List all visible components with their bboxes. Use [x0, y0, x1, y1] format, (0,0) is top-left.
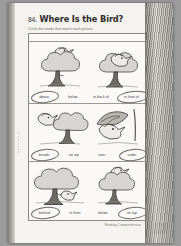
worksheet-title: Where Is the Bird?: [40, 14, 124, 24]
label-row2-1[interactable]: on top: [62, 153, 86, 157]
worksheet-frame: above below in back of in front of: [28, 33, 148, 221]
pencil-circle-row2-beside: [30, 148, 59, 163]
screenshot-root: Where Is the Bird? 84. Where Is the Bird…: [0, 0, 181, 246]
bird-behind-tree-illustration: [31, 163, 89, 207]
page-spine-shadow: [8, 3, 15, 243]
pencil-circle-row3-behind: [30, 206, 60, 221]
label-row2-2[interactable]: over: [92, 153, 112, 157]
tree-icon: [99, 172, 135, 204]
bird-in-front-of-tree-illustration: [91, 43, 145, 91]
bird-beside-tree-illustration: [33, 105, 87, 149]
workbook-page: Where Is the Bird? 84. Where Is the Bird…: [8, 3, 173, 243]
label-row-1: above below in back of in front of: [29, 90, 147, 103]
book-block-edge-texture: [146, 3, 173, 243]
picture-row3-left: [31, 163, 89, 207]
bird-on-top-of-tree-illustration: [91, 163, 145, 207]
tree-icon: [53, 113, 88, 144]
frame-rule-top: [29, 41, 147, 42]
pencil-circle-row3-on-top: [117, 206, 148, 221]
footer-subject: Reading Comprehension: [105, 223, 141, 227]
label-row1-1[interactable]: below: [62, 95, 84, 99]
page-title: 84. Where Is the Bird?: [28, 14, 141, 24]
picture-row1-right: [91, 43, 145, 91]
pencil-circle-row1-above: [30, 90, 59, 105]
picture-row3-right: [91, 163, 145, 207]
tree-icon: [41, 52, 79, 86]
label-row-2: beside on top over under: [29, 148, 147, 161]
picture-row2-left: [33, 105, 87, 149]
label-row1-2[interactable]: in back of: [88, 95, 114, 99]
spine-note: Where Is the Bird?: [17, 93, 19, 153]
bird-above-tree-illustration: [33, 43, 87, 91]
picture-row2-right: [91, 105, 145, 149]
pencil-circle-row2-under: [118, 148, 147, 163]
label-row-3: behind in front below on top: [29, 206, 147, 219]
picture-row1-left: [33, 43, 87, 91]
label-row3-2[interactable]: below: [92, 211, 114, 215]
bird-under-leaf-illustration: [91, 105, 145, 149]
large-leaf-icon: [97, 112, 128, 126]
bird-icon: [61, 191, 77, 200]
bird-icon: [99, 124, 125, 139]
worksheet-number: 84.: [28, 16, 37, 23]
worksheet-instructions: Circle the words that match each picture…: [28, 27, 141, 31]
label-row3-1[interactable]: in front: [63, 211, 87, 215]
worksheet-header: 84. Where Is the Bird? Circle the words …: [28, 14, 141, 31]
